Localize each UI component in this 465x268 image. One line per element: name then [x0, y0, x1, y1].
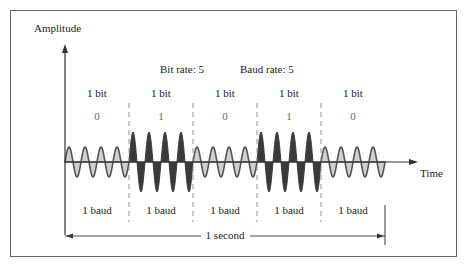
bit-label: 1 bit [215, 87, 235, 99]
bit-value: 0 [350, 110, 356, 122]
y-axis-label: Amplitude [34, 22, 81, 34]
bit-label: 1 bit [87, 87, 107, 99]
baud-label: 1 baud [82, 204, 112, 216]
baud-label: 1 baud [146, 204, 176, 216]
bit-rate-label: Bit rate: 5 [160, 63, 204, 75]
bit-value: 1 [158, 110, 164, 122]
bit-label: 1 bit [343, 87, 363, 99]
x-axis-label: Time [420, 167, 443, 179]
baud-label: 1 baud [338, 204, 368, 216]
bit-label: 1 bit [151, 87, 171, 99]
x-axis-arrow-icon [409, 159, 418, 165]
duration-arrow-right-icon [377, 234, 384, 239]
duration-label: 1 second [203, 229, 248, 241]
baud-label: 1 baud [274, 204, 304, 216]
waveform-diagram [0, 0, 465, 268]
baud-rate-label: Baud rate: 5 [240, 63, 294, 75]
y-axis-arrow-icon [62, 44, 68, 53]
bit-value: 0 [94, 110, 100, 122]
baud-label: 1 baud [210, 204, 240, 216]
bit-value: 0 [222, 110, 228, 122]
bit-label: 1 bit [279, 87, 299, 99]
bit-value: 1 [286, 110, 292, 122]
duration-arrow-left-icon [66, 234, 73, 239]
